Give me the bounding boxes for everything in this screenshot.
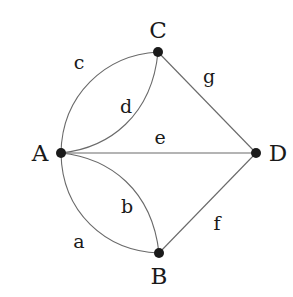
edge-label-b: b xyxy=(121,195,133,217)
edge-label-c: c xyxy=(74,51,85,73)
edge-label-f: f xyxy=(213,212,222,234)
edge-label-g: g xyxy=(203,65,215,87)
vertex-b xyxy=(154,248,164,258)
edge-label-d: d xyxy=(120,95,132,117)
vertex-label-d: D xyxy=(269,140,287,166)
vertex-d xyxy=(251,148,261,158)
graph-diagram: A B C D a b c d e f g xyxy=(0,0,293,297)
edge-f xyxy=(159,153,256,253)
vertex-label-a: A xyxy=(31,140,49,166)
edge-label-e: e xyxy=(154,126,165,148)
vertex-label-b: B xyxy=(151,263,168,289)
edge-label-a: a xyxy=(73,230,84,252)
vertex-a xyxy=(56,148,66,158)
vertex-label-c: C xyxy=(149,17,167,43)
vertex-c xyxy=(153,47,163,57)
